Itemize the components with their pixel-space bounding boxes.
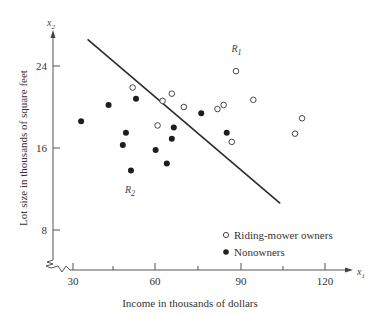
x-tick-120: 120 [317,275,334,287]
region-r2-label: R2 [124,184,135,198]
owner-point [221,102,227,108]
scatter-chart: 24 16 8 x2 30 60 90 120 x1 Income in tho… [0,0,378,316]
y-axis-title: Lot size in thousands of square feet [17,70,29,226]
owner-point [233,68,239,74]
y-tick-16: 16 [36,142,48,154]
y-tick-24: 24 [36,60,48,72]
owner-point [299,115,305,121]
owner-point [215,106,221,112]
legend-owners-label: Riding-mower owners [234,229,333,241]
owner-point [251,97,257,103]
nonowner-point [106,102,112,108]
nonowner-point [224,130,230,136]
x-axis-arrow-icon [345,268,353,273]
owner-point [155,123,161,129]
x-axis-title: Income in thousands of dollars [122,297,258,309]
nonowner-point [171,125,177,131]
x-axis-variable: x1 [356,266,365,280]
x-axis: 30 60 90 120 x1 [68,263,365,287]
nonowner-point [133,96,139,102]
owner-point [229,139,235,145]
nonowner-point [123,130,129,136]
owner-point [169,91,175,97]
owner-point [181,104,187,110]
y-axis-variable: x2 [46,17,55,31]
legend-filled-circle-icon [223,249,229,255]
owner-point [160,98,166,104]
y-axis: 24 16 8 x2 [36,17,60,260]
nonowner-point [198,110,204,116]
x-tick-30: 30 [68,275,80,287]
nonowner-point [164,160,170,166]
nonowner-point [78,118,84,124]
y-axis-arrow-icon [51,30,56,38]
data-points [78,68,305,173]
owner-point [292,131,298,137]
nonowner-point [153,147,159,153]
nonowner-point [120,142,126,148]
region-r1-label: R1 [230,43,241,57]
legend: Riding-mower owners Nonowners [223,229,332,258]
x-tick-90: 90 [236,275,248,287]
decision-boundary-line [88,39,281,203]
y-tick-8: 8 [42,224,48,236]
legend-nonowners-label: Nonowners [234,246,285,258]
nonowner-point [169,136,175,142]
legend-open-circle-icon [223,232,228,237]
axis-break-icon [46,260,73,272]
x-tick-60: 60 [150,275,162,287]
owner-point [130,85,136,91]
nonowner-point [128,168,134,174]
